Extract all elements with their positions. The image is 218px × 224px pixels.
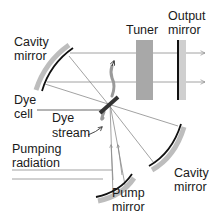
label-pump-mirror-1: Pump: [112, 186, 145, 200]
dye-laser-diagram: Cavity mirror Tuner Output mirror Dye ce…: [0, 0, 218, 224]
label-pump-mirror-2: mirror: [112, 200, 145, 214]
ray-left-lower: [45, 84, 108, 104]
label-dye-stream-2: stream: [52, 126, 90, 140]
label-pumping-radiation-2: radiation: [12, 156, 60, 170]
label-output-mirror-2: mirror: [168, 23, 201, 37]
label-cavity-mirror-right-2: mirror: [174, 180, 207, 194]
label-pumping-radiation-1: Pumping: [12, 142, 61, 156]
ray-right-lower: [108, 104, 154, 163]
dye-cell-bar: [100, 97, 118, 113]
label-cavity-mirror-left-1: Cavity: [14, 35, 49, 49]
pump-arrow-b: [118, 145, 122, 175]
label-cavity-mirror-left-2: mirror: [14, 49, 47, 63]
label-dye-cell-2: cell: [14, 107, 33, 121]
output-mirror: [178, 40, 186, 100]
cavity-mirror-right: [149, 124, 184, 170]
label-dye-cell-1: Dye: [14, 93, 36, 107]
ray-right-upper: [108, 104, 178, 126]
tuner-block: [136, 40, 153, 100]
label-cavity-mirror-right-1: Cavity: [174, 166, 209, 180]
label-tuner: Tuner: [126, 23, 158, 37]
label-output-mirror-1: Output: [168, 9, 206, 23]
output-mirror-shade: [178, 40, 186, 100]
label-dye-stream-1: Dye: [52, 111, 74, 125]
ray-left-upper: [69, 56, 108, 104]
